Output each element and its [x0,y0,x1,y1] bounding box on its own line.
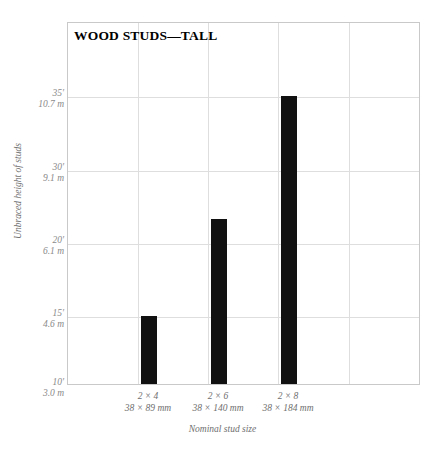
gridline-vertical [208,23,209,384]
x-tick-2x8: 2 × 8 38 × 184 mm [233,390,343,414]
y-tick-metric: 3.0 m [6,388,64,399]
gridline-horizontal [68,97,419,98]
gridline-horizontal [68,244,419,245]
chart-container: WOOD STUDS—TALL 35' 10.7 m 30' 9.1 m 20'… [0,0,445,455]
x-axis-title: Nominal stud size [0,424,445,434]
bar-2x8[interactable] [281,96,297,384]
x-tick-nominal: 2 × 8 [233,390,343,402]
y-tick-metric: 10.7 m [6,99,64,110]
bar-2x6[interactable] [211,219,227,384]
chart-title: WOOD STUDS—TALL [74,28,217,44]
gridline-vertical [138,23,139,384]
gridline-vertical [278,23,279,384]
y-tick-imperial: 35' [6,88,64,99]
gridline-horizontal [68,171,419,172]
y-tick-metric: 4.6 m [6,319,64,330]
plot-area [67,22,420,385]
y-tick-imperial: 15' [6,308,64,319]
y-tick-imperial: 10' [6,377,64,388]
gridline-vertical [349,23,350,384]
y-axis-title: Unbraced height of studs [13,111,23,271]
bar-2x4[interactable] [141,316,157,384]
x-tick-metric: 38 × 184 mm [233,402,343,414]
gridline-horizontal [68,317,419,318]
